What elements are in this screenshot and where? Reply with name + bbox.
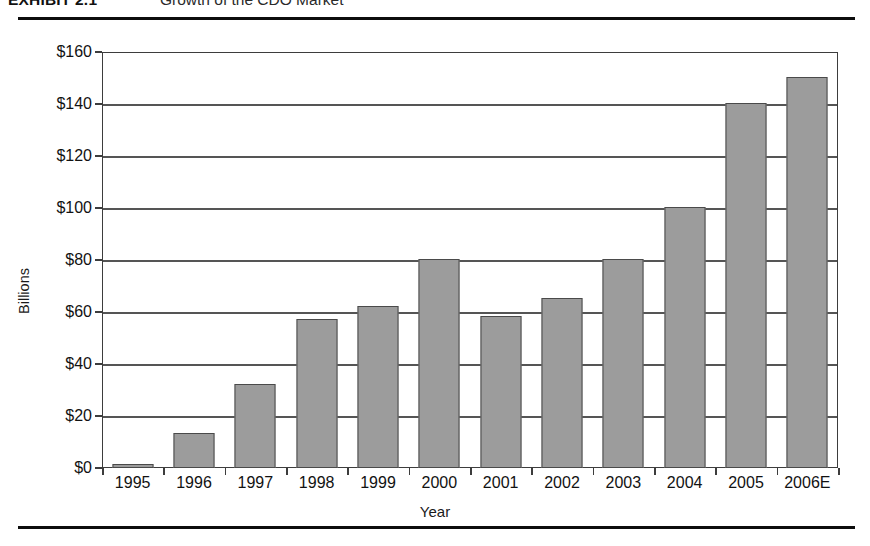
bar-slot bbox=[593, 52, 654, 468]
bar[interactable] bbox=[235, 384, 276, 469]
bar-slot bbox=[347, 52, 408, 468]
bar-series bbox=[102, 52, 838, 468]
y-tick-mark bbox=[95, 103, 102, 105]
bar-slot bbox=[470, 52, 531, 468]
bar-slot bbox=[531, 52, 592, 468]
bar-slot bbox=[286, 52, 347, 468]
bar[interactable] bbox=[541, 298, 582, 468]
y-tick-label: $120 bbox=[12, 147, 92, 165]
y-tick-label: $140 bbox=[12, 95, 92, 113]
bar-slot bbox=[409, 52, 470, 468]
bar[interactable] bbox=[419, 259, 460, 468]
y-tick-label: $60 bbox=[12, 303, 92, 321]
bar[interactable] bbox=[480, 316, 521, 468]
bar-slot bbox=[654, 52, 715, 468]
bar-slot bbox=[102, 52, 163, 468]
bar[interactable] bbox=[603, 259, 644, 468]
y-tick-label: $20 bbox=[12, 407, 92, 425]
y-tick-mark bbox=[95, 259, 102, 261]
y-tick-label: $0 bbox=[12, 459, 92, 477]
y-tick-mark bbox=[95, 155, 102, 157]
y-tick-label: $40 bbox=[12, 355, 92, 373]
y-tick-mark bbox=[95, 311, 102, 313]
exhibit-header: EXHIBIT 2.1 Growth of the CDO Market bbox=[0, 0, 870, 11]
bar[interactable] bbox=[787, 77, 828, 468]
y-tick-mark bbox=[95, 467, 102, 469]
x-tick-label: 2006E bbox=[757, 474, 857, 492]
y-tick-label: $160 bbox=[12, 43, 92, 61]
x-tick-mark bbox=[102, 468, 104, 475]
bar[interactable] bbox=[357, 306, 398, 469]
bar[interactable] bbox=[112, 464, 153, 468]
x-axis-title: Year bbox=[0, 503, 870, 520]
bar[interactable] bbox=[173, 433, 214, 468]
y-tick-mark bbox=[95, 363, 102, 365]
y-tick-label: $100 bbox=[12, 199, 92, 217]
bar-slot bbox=[777, 52, 838, 468]
footer-rule bbox=[18, 526, 855, 529]
exhibit-title: Growth of the CDO Market bbox=[160, 0, 343, 9]
bar[interactable] bbox=[725, 103, 766, 468]
header-rule bbox=[18, 17, 855, 20]
bar-chart: Billions $0$20$40$60$80$100$120$140$1601… bbox=[0, 30, 870, 522]
bar-slot bbox=[163, 52, 224, 468]
y-tick-mark bbox=[95, 51, 102, 53]
y-tick-mark bbox=[95, 207, 102, 209]
bar-slot bbox=[715, 52, 776, 468]
y-tick-label: $80 bbox=[12, 251, 92, 269]
bar[interactable] bbox=[296, 319, 337, 469]
exhibit-label: EXHIBIT 2.1 bbox=[8, 0, 97, 9]
bar[interactable] bbox=[664, 207, 705, 468]
y-tick-mark bbox=[95, 415, 102, 417]
bar-slot bbox=[225, 52, 286, 468]
